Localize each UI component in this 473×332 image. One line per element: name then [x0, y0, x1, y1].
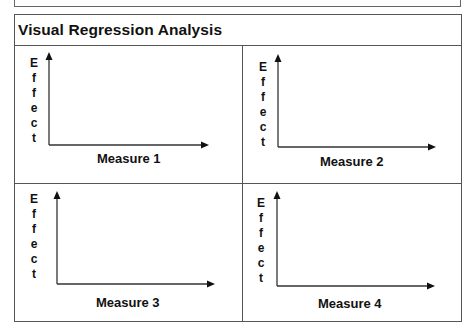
y-axis-letter: t [256, 272, 266, 285]
y-axis-letter: f [256, 227, 266, 240]
y-axis-letter: E [256, 197, 266, 210]
axes-icon [0, 0, 473, 332]
y-axis-letter: e [256, 242, 266, 255]
x-axis-label: Measure 4 [318, 296, 382, 311]
y-axis-letter: f [256, 212, 266, 225]
y-axis-letter: c [256, 257, 266, 270]
